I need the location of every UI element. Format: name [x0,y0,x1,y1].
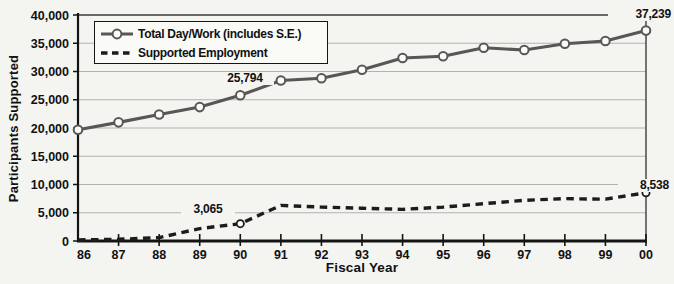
data-point-marker [358,66,367,75]
data-point-marker [237,220,244,227]
data-label-total-fy00: 37,239 [608,8,672,21]
data-point-marker [398,54,407,63]
solid-line-circle-marker-icon [101,27,133,41]
data-point-marker [601,37,610,46]
legend-item-supported-employment: Supported Employment [101,44,323,61]
y-axis-title: Participants Supported [6,44,21,214]
chart-figure: 05,00010,00015,00020,00025,00030,00035,0… [0,0,674,284]
y-tick-label: 35,000 [31,37,69,51]
legend-label-total-day-work: Total Day/Work (includes S.E.) [138,27,301,41]
dashed-line-icon [101,46,133,60]
y-tick-label: 5,000 [38,206,69,220]
data-point-marker [317,74,326,83]
y-tick-label: 25,000 [31,93,69,107]
y-tick-label: 20,000 [31,122,69,136]
data-point-marker [277,76,286,85]
data-point-marker [114,118,123,127]
data-point-marker [520,46,529,55]
data-point-marker [642,26,651,35]
data-point-marker [195,103,204,112]
legend-label-supported-employment: Supported Employment [138,46,267,60]
data-point-marker [479,43,488,52]
y-tick-label: 10,000 [31,178,69,192]
data-point-marker [74,125,83,134]
data-label-total-fy90: 25,794 [216,72,274,85]
y-tick-label: 15,000 [31,150,69,164]
y-tick-label: 0 [62,235,69,249]
data-point-marker [439,52,448,61]
y-tick-label: 30,000 [31,65,69,79]
legend: Total Day/Work (includes S.E.) Supported… [94,21,328,64]
data-point-marker [236,91,245,100]
data-label-supported-fy00: 8,538 [618,179,670,192]
data-point-marker [155,110,164,119]
y-tick-label: 40,000 [31,9,69,23]
x-axis-title: Fiscal Year [78,260,646,275]
legend-item-total-day-work: Total Day/Work (includes S.E.) [101,25,323,42]
data-point-marker [561,40,570,49]
series-line-supported-employment [78,193,646,240]
data-label-supported-fy90: 3,065 [181,203,235,216]
